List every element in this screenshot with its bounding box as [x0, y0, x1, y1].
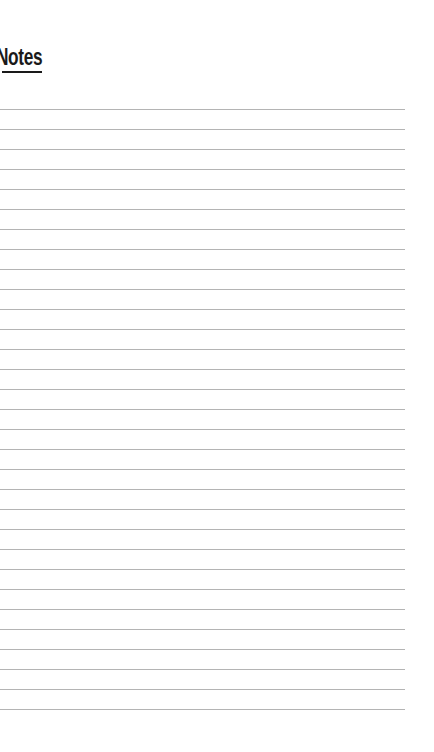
ruled-line [0, 389, 405, 390]
ruled-line [0, 569, 405, 570]
ruled-line [0, 589, 405, 590]
ruled-line [0, 529, 405, 530]
ruled-line [0, 629, 405, 630]
ruled-line [0, 489, 405, 490]
ruled-line [0, 429, 405, 430]
ruled-line [0, 249, 405, 250]
ruled-line [0, 509, 405, 510]
ruled-line [0, 469, 405, 470]
ruled-line [0, 109, 405, 110]
ruled-line [0, 329, 405, 330]
ruled-line [0, 209, 405, 210]
ruled-line [0, 269, 405, 270]
ruled-line [0, 349, 405, 350]
ruled-line [0, 229, 405, 230]
ruled-line [0, 609, 405, 610]
ruled-line [0, 549, 405, 550]
ruled-line [0, 689, 405, 690]
ruled-line [0, 649, 405, 650]
ruled-line [0, 669, 405, 670]
ruled-line [0, 709, 405, 710]
ruled-line [0, 129, 405, 130]
ruled-line [0, 289, 405, 290]
ruled-line [0, 369, 405, 370]
ruled-line [0, 189, 405, 190]
ruled-line [0, 169, 405, 170]
ruled-line [0, 149, 405, 150]
ruled-lines-area[interactable] [0, 0, 434, 752]
ruled-line [0, 449, 405, 450]
ruled-line [0, 409, 405, 410]
ruled-line [0, 309, 405, 310]
